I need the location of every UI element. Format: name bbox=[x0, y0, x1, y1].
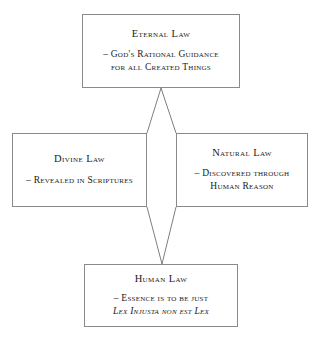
node-divine-law: Divine Law – Revealed in Scriptures bbox=[12, 133, 147, 207]
node-eternal-law-line-1: – God's Rational Guidance bbox=[103, 48, 219, 61]
node-human-law-latin-maxim: Lex Injusta non est Lex bbox=[113, 305, 209, 318]
connector-eternal-to-natural bbox=[161, 88, 176, 133]
node-divine-law-title: Divine Law bbox=[54, 153, 105, 165]
node-natural-law-title: Natural Law bbox=[212, 147, 272, 159]
node-eternal-law-line-2: for all Created Things bbox=[111, 61, 211, 74]
node-natural-law: Natural Law – Discovered through Human R… bbox=[176, 133, 308, 207]
connector-eternal-to-divine bbox=[147, 88, 161, 133]
node-human-law-title: Human Law bbox=[135, 273, 188, 285]
connector-natural-to-human bbox=[162, 207, 176, 264]
node-human-law: Human Law – Essence is to be just Lex In… bbox=[84, 264, 238, 327]
node-natural-law-line-1: – Discovered through bbox=[195, 167, 290, 180]
node-human-law-line-1: – Essence is to be just bbox=[114, 292, 209, 305]
node-divine-law-line-1: – Revealed in Scriptures bbox=[26, 174, 133, 187]
node-eternal-law: Eternal Law – God's Rational Guidance fo… bbox=[82, 14, 240, 88]
node-eternal-law-title: Eternal Law bbox=[132, 28, 191, 40]
connector-divine-to-human bbox=[147, 207, 162, 264]
node-natural-law-line-2: Human Reason bbox=[210, 180, 273, 193]
law-hierarchy-diagram: Eternal Law – God's Rational Guidance fo… bbox=[0, 0, 318, 338]
